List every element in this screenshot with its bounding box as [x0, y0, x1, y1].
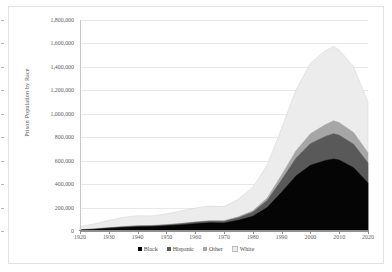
x-tick-mark — [224, 231, 225, 234]
x-tick-mark — [109, 231, 110, 234]
x-tick-mark — [80, 231, 81, 234]
y-tick-mark — [1, 114, 4, 115]
y-tick-mark — [1, 137, 4, 138]
x-tick-mark — [310, 231, 311, 234]
legend-item-hispanic[interactable]: Hispanic — [167, 246, 194, 252]
y-axis-line — [80, 20, 81, 231]
legend-label: Black — [144, 246, 158, 252]
y-tick-label: 200,000 — [4, 205, 74, 211]
chart-legend: BlackHispanicOtherWhite — [9, 246, 383, 252]
legend-label: White — [240, 246, 255, 252]
stacked-area-series — [80, 20, 368, 231]
y-tick-mark — [1, 20, 4, 21]
x-tick-mark — [368, 231, 369, 234]
y-tick-label: 1,600,000 — [4, 40, 74, 46]
legend-label: Other — [209, 246, 223, 252]
x-tick-mark — [339, 231, 340, 234]
x-tick-label: 2020 — [348, 234, 388, 240]
plot-area: 0200,000400,000600,000800,0001,000,0001,… — [80, 20, 368, 231]
y-tick-mark — [1, 184, 4, 185]
legend-swatch-icon — [203, 247, 207, 251]
x-tick-mark — [195, 231, 196, 234]
legend-swatch-icon — [232, 246, 238, 252]
y-tick-mark — [1, 90, 4, 91]
legend-swatch-icon — [167, 247, 171, 251]
x-tick-mark — [166, 231, 167, 234]
y-tick-label: 400,000 — [4, 181, 74, 187]
legend-label: Hispanic — [173, 246, 194, 252]
y-tick-label: 600,000 — [4, 158, 74, 164]
y-tick-label: 1,400,000 — [4, 64, 74, 70]
x-tick-mark — [282, 231, 283, 234]
legend-item-black[interactable]: Black — [138, 246, 158, 252]
legend-item-white[interactable]: White — [232, 246, 255, 252]
y-axis-title: Prison Population by Race — [23, 38, 30, 168]
x-tick-mark — [253, 231, 254, 234]
plot-inner — [80, 20, 368, 231]
x-tick-mark — [138, 231, 139, 234]
y-tick-mark — [1, 208, 4, 209]
y-tick-label: 1,200,000 — [4, 87, 74, 93]
y-tick-mark — [1, 43, 4, 44]
y-tick-mark — [1, 161, 4, 162]
y-tick-mark — [1, 67, 4, 68]
y-tick-label: 1,000,000 — [4, 111, 74, 117]
y-tick-label: 1,800,000 — [4, 17, 74, 23]
y-tick-mark — [1, 231, 4, 232]
legend-item-other[interactable]: Other — [203, 246, 223, 252]
chart-frame: Prison Population by Race 0200,000400,00… — [8, 6, 384, 264]
y-tick-label: 800,000 — [4, 134, 74, 140]
legend-swatch-icon — [138, 247, 142, 251]
